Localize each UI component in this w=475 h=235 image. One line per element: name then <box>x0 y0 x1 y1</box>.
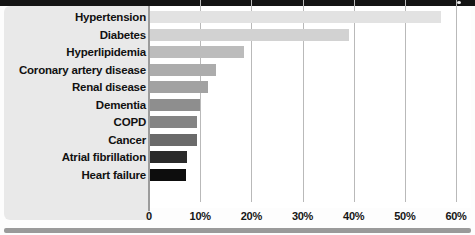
bar-row: Cancer <box>0 132 475 149</box>
category-label-2: Diabetes <box>100 28 146 43</box>
bar-row: Hyperlipidemia <box>0 44 475 61</box>
x-tick-label-20: 20% <box>241 210 262 222</box>
bar-row: Renal disease <box>0 79 475 96</box>
bar-7 <box>150 116 197 128</box>
bar-chart-figure: HypertensionDiabetesHyperlipidemiaCorona… <box>0 0 475 235</box>
bar-row: Diabetes <box>0 27 475 44</box>
x-tick-label-50: 50% <box>394 210 415 222</box>
x-tick-label-60: 60% <box>445 210 466 222</box>
bar-2 <box>150 29 349 41</box>
x-tick-label-30: 30% <box>292 210 313 222</box>
category-label-1: Hypertension <box>75 10 146 25</box>
bar-5 <box>150 81 208 93</box>
band-dot-marker <box>457 1 461 4</box>
x-tick-label-10: 10% <box>190 210 211 222</box>
category-label-10: Heart failure <box>81 168 146 183</box>
bar-1 <box>150 11 441 23</box>
bar-row: Coronary artery disease <box>0 62 475 79</box>
bottom-rule <box>4 228 471 233</box>
x-tick-label-0: 0 <box>146 210 152 222</box>
bar-3 <box>150 46 244 58</box>
bar-4 <box>150 64 216 76</box>
bar-8 <box>150 134 197 146</box>
category-label-7: COPD <box>114 115 146 130</box>
category-label-9: Atrial fibrillation <box>62 150 146 165</box>
bar-row: Atrial fibrillation <box>0 149 475 166</box>
bar-6 <box>150 99 200 111</box>
category-label-5: Renal disease <box>72 80 146 95</box>
bar-row: Dementia <box>0 97 475 114</box>
bar-row: Heart failure <box>0 167 475 184</box>
bar-9 <box>150 151 187 163</box>
category-label-3: Hyperlipidemia <box>66 45 146 60</box>
bar-row: COPD <box>0 114 475 131</box>
bar-10 <box>150 169 186 181</box>
bar-row: Hypertension <box>0 9 475 26</box>
category-label-4: Coronary artery disease <box>19 63 146 78</box>
category-label-8: Cancer <box>108 133 146 148</box>
category-label-6: Dementia <box>96 98 146 113</box>
x-tick-label-40: 40% <box>343 210 364 222</box>
